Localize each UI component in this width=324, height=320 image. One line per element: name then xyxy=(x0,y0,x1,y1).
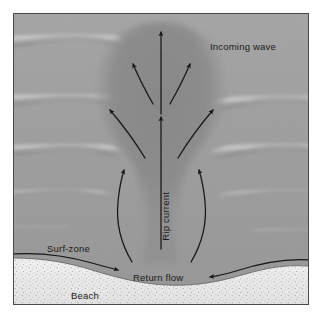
label-rip-current: Rip current xyxy=(160,192,171,241)
diagram-canvas xyxy=(14,14,308,304)
label-surf-zone: Surf-zone xyxy=(47,243,90,254)
figure-frame: Incoming wave Rip current Return flow Su… xyxy=(13,13,309,305)
label-beach: Beach xyxy=(71,290,99,301)
rip-current-figure: Incoming wave Rip current Return flow Su… xyxy=(0,0,324,320)
label-incoming-wave: Incoming wave xyxy=(210,41,276,52)
label-return-flow: Return flow xyxy=(133,272,183,283)
wave-crest xyxy=(14,226,68,228)
